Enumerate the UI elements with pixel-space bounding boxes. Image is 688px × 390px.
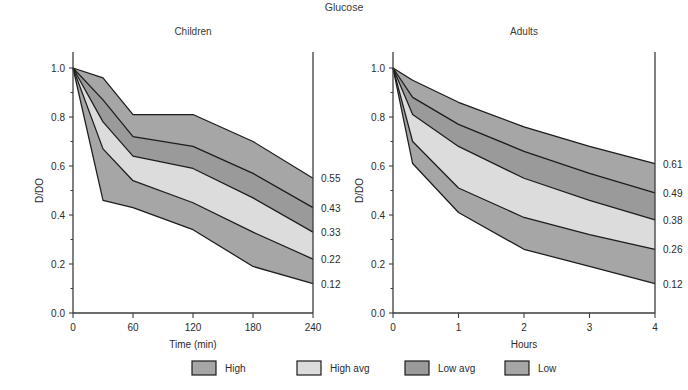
glucose-chart: GlucoseChildren0.00.20.40.60.81.0D/DO060… <box>0 0 688 390</box>
y-tick-label-0-adults: 0.0 <box>371 308 385 319</box>
y-tick-label-3-children: 0.6 <box>51 161 65 172</box>
figure-container: GlucoseChildren0.00.20.40.60.81.0D/DO060… <box>0 0 688 390</box>
legend-label-high: High <box>225 363 246 374</box>
y-axis-label-children: D/DO <box>34 178 45 203</box>
x-tick-label-2-children: 120 <box>185 322 202 333</box>
legend-swatch-high-avg <box>297 361 321 375</box>
end-label-upper-children: 0.55 <box>321 173 341 184</box>
x-tick-label-4-adults: 4 <box>652 322 658 333</box>
legend-label-low-avg: Low avg <box>438 363 475 374</box>
y-tick-label-3-adults: 0.6 <box>371 161 385 172</box>
x-axis-label-adults: Hours <box>511 339 538 350</box>
end-label-lower-children: 0.12 <box>321 279 341 290</box>
figure-title: Glucose <box>325 1 364 13</box>
legend-label-low: Low <box>538 363 557 374</box>
end-label-lower-adults: 0.12 <box>663 279 683 290</box>
panel-adults: Adults0.00.20.40.60.81.0D/DO01234Hours0.… <box>354 26 683 350</box>
legend-swatch-low-avg <box>405 361 429 375</box>
panel-title-children: Children <box>174 26 211 37</box>
end-label-high-mid-adults: 0.49 <box>663 188 683 199</box>
x-tick-label-3-adults: 3 <box>587 322 593 333</box>
panel-title-adults: Adults <box>510 26 538 37</box>
y-tick-label-5-children: 1.0 <box>51 63 65 74</box>
x-tick-label-4-children: 240 <box>305 322 322 333</box>
end-label-low-mid-children: 0.22 <box>321 254 341 265</box>
end-label-low-mid-adults: 0.26 <box>663 244 683 255</box>
legend: HighHigh avgLow avgLow <box>192 361 557 375</box>
y-tick-label-0-children: 0.0 <box>51 308 65 319</box>
end-label-mid-children: 0.33 <box>321 227 341 238</box>
x-tick-label-3-children: 180 <box>245 322 262 333</box>
x-axis-label-children: Time (min) <box>169 339 216 350</box>
x-tick-label-2-adults: 2 <box>521 322 527 333</box>
x-tick-label-1-adults: 1 <box>456 322 462 333</box>
end-label-upper-adults: 0.61 <box>663 159 683 170</box>
y-tick-label-4-adults: 0.8 <box>371 112 385 123</box>
x-tick-label-0-adults: 0 <box>390 322 396 333</box>
legend-label-high-avg: High avg <box>330 363 369 374</box>
end-label-mid-adults: 0.38 <box>663 215 683 226</box>
y-tick-label-5-adults: 1.0 <box>371 63 385 74</box>
y-axis-label-adults: D/DO <box>354 178 365 203</box>
panel-children: Children0.00.20.40.60.81.0D/DO0601201802… <box>34 26 341 350</box>
y-tick-label-2-children: 0.4 <box>51 210 65 221</box>
x-tick-label-0-children: 0 <box>70 322 76 333</box>
end-label-high-mid-children: 0.43 <box>321 203 341 214</box>
y-tick-label-1-children: 0.2 <box>51 259 65 270</box>
y-tick-label-4-children: 0.8 <box>51 112 65 123</box>
x-tick-label-1-children: 60 <box>127 322 139 333</box>
y-tick-label-2-adults: 0.4 <box>371 210 385 221</box>
y-tick-label-1-adults: 0.2 <box>371 259 385 270</box>
legend-swatch-high <box>192 361 216 375</box>
legend-swatch-low <box>505 361 529 375</box>
